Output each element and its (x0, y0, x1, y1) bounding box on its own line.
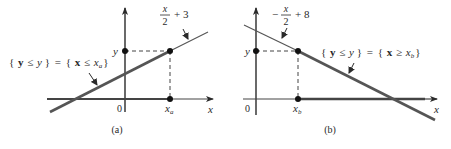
line-thick-b (298, 51, 435, 120)
equation-a: x 2 + 3 (160, 3, 189, 27)
origin-label-a: 0 (117, 103, 122, 114)
panel-b: − x 2 + 8 { y ≤ y } = { x ≥ xb} y 0 (243, 3, 439, 136)
dot-y-a (122, 48, 128, 54)
eq-a-suffix: + 3 (174, 8, 189, 20)
diagram-figure: x 2 + 3 { y ≤ y } = { x ≤ xa} y 0 xa (0, 0, 451, 149)
xb-label: xb (292, 102, 302, 116)
pointer-arrow-eq-a (183, 29, 188, 39)
dot-intersect-a (167, 48, 173, 54)
svg-text:{ y ≤: { y ≤ y } = { x ≥ xb} (321, 46, 420, 60)
svg-text:{ y ≤: { y ≤ y } = { x ≤ xa} (9, 56, 108, 70)
line-thin-b (244, 25, 298, 51)
caption-a: (a) (111, 124, 122, 136)
eq-a-numerator: x (162, 3, 168, 14)
x-label-b: x (433, 103, 439, 115)
pointer-arrow-eq-b (282, 28, 287, 38)
dot-y-b (253, 48, 259, 54)
x-label-a: x (207, 103, 213, 115)
eq-b-suffix: + 8 (295, 8, 310, 20)
origin-label-b: 0 (245, 103, 250, 114)
xa-label: xa (164, 102, 174, 116)
equation-b: − x 2 + 8 (272, 3, 310, 27)
y-label-a: y (112, 45, 118, 57)
eq-a-denominator: 2 (163, 16, 168, 27)
set-label-b: { y ≤ y } = { x ≥ xb} (321, 46, 420, 60)
pointer-arrow-set-a (89, 73, 97, 85)
y-label-b: y (244, 45, 250, 57)
pointer-arrow-set-b (349, 63, 354, 73)
panel-a: x 2 + 3 { y ≤ y } = { x ≤ xa} y 0 xa (9, 3, 213, 136)
eq-b-prefix: − (272, 8, 278, 20)
eq-b-denominator: 2 (284, 16, 289, 27)
line-thin-a (170, 32, 208, 51)
dot-intersect-b (295, 48, 301, 54)
set-label-a: { y ≤ y } = { x ≤ xa} (9, 56, 108, 70)
eq-b-numerator: x (283, 3, 289, 14)
caption-b: (b) (324, 124, 336, 136)
